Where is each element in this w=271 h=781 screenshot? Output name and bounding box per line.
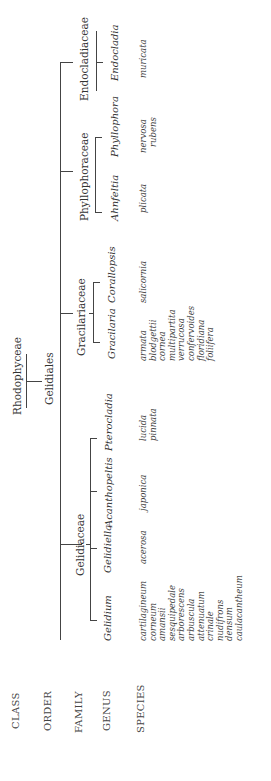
species-salicornia: salicornia: [139, 261, 149, 303]
family-phyllophoraceae: Phyllophoraceae: [79, 133, 90, 221]
genus-gelidium: Gelidium: [103, 595, 113, 641]
genus-gelidiella: Gelidiella: [103, 525, 113, 573]
tick-endocladia: [96, 62, 103, 63]
drop-gracilariaceae: [60, 313, 73, 314]
genus-acanthopeltis: Acanthopeltis: [104, 457, 114, 527]
family-gelidiaceae: Gelidiaceae: [75, 514, 86, 576]
tick-phyllophora: [95, 137, 102, 138]
species-list-pterocladia: lucida pinnata: [139, 408, 158, 441]
rank-label-order: ORDER: [43, 691, 53, 731]
tick-pterocladia: [90, 438, 97, 439]
tick-gelidium: [90, 620, 97, 621]
species-list-phyllophora: nervosa rubens: [139, 117, 158, 153]
species-muricata: muricata: [139, 39, 149, 78]
rank-label-genus: GENUS: [102, 690, 112, 731]
tick-gelidiella: [90, 548, 97, 549]
tick-gracilaria: [93, 342, 100, 343]
tick-acanthopeltis: [90, 491, 97, 492]
drop-endocladiaceae: [60, 62, 73, 63]
rank-label-species: SPECIES: [136, 684, 146, 733]
tick-corallopsis: [93, 282, 100, 283]
phyllophoraceae-genus-bar: [95, 137, 96, 213]
gracilariaceae-stub: [89, 313, 93, 314]
order-branch-bar: [60, 62, 61, 640]
gelidiaceae-stub: [86, 544, 90, 545]
tick-ahnfeltia: [95, 212, 102, 213]
class-to-order-connector: [26, 381, 42, 382]
species-caulacantheum: caulacantheum: [235, 575, 245, 641]
genus-phyllophora: Phyllophora: [110, 96, 120, 157]
drop-phyllophoraceae: [60, 171, 73, 172]
endocladiaceae-underline: [96, 31, 97, 91]
gracilariaceae-genus-bar: [93, 282, 94, 343]
species-acerosa: acerosa: [139, 531, 149, 564]
gelidiaceae-genus-bar: [90, 438, 91, 621]
taxonomy-tree-diagram: CLASS ORDER FAMILY GENUS SPECIES Rhodoph…: [0, 0, 271, 781]
species-list-gracilaria: armata blodgettii cornea multipartita ve…: [139, 306, 216, 361]
species-rubens: rubens: [149, 117, 159, 153]
species-list-ahnfeltia: plicata: [139, 184, 149, 213]
species-foliifera: foliifera: [206, 306, 216, 361]
rank-label-family: FAMILY: [74, 691, 84, 733]
species-list-acanthopeltis: japonica: [139, 475, 149, 511]
species-list-endocladia: muricata: [139, 39, 149, 78]
species-list-gelidiella: acerosa: [139, 531, 149, 564]
species-pinnata: pinnata: [149, 408, 159, 441]
species-plicata: plicata: [139, 184, 149, 213]
genus-pterocladia: Pterocladia: [104, 393, 114, 451]
genus-corallopsis: Corallopsis: [107, 246, 117, 303]
rank-label-class: CLASS: [11, 692, 21, 729]
genus-gracilaria: Gracilaria: [107, 308, 117, 359]
genus-endocladia: Endocladia: [110, 25, 120, 81]
order-gelidiales: Gelidiales: [44, 352, 55, 405]
species-list-gelidium: cartilagineum corneum amansii sesquipeda…: [139, 575, 245, 641]
class-rhodophyceae: Rhodophyceae: [12, 337, 23, 415]
genus-ahnfeltia: Ahnfeltia: [110, 175, 120, 221]
species-japonica: japonica: [139, 475, 149, 511]
family-endocladiaceae: Endocladiaceae: [79, 17, 90, 101]
family-gracilariaceae: Gracilariaceae: [76, 278, 87, 356]
species-list-corallopsis: salicornia: [139, 261, 149, 303]
